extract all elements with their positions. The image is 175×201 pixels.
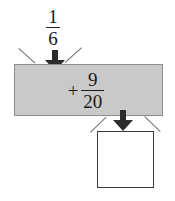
operand-fraction-numerator: 9 [86,70,100,89]
operand-fraction: 9 20 [81,70,104,112]
input-fraction-denominator: 6 [46,29,60,48]
function-machine-diagram: 1 6 + 9 20 [0,0,175,201]
funnel-line-bottom-right [144,116,161,132]
input-value: 1 6 [38,7,68,49]
arrow-down-icon-output [113,110,133,133]
input-fraction-numerator: 1 [46,7,60,26]
operator-symbol: + [68,80,79,102]
input-fraction: 1 6 [46,7,60,49]
arrow-head [113,120,133,131]
operand-fraction-denominator: 20 [81,92,104,111]
answer-box[interactable] [97,131,154,188]
funnel-line-top-left [18,48,35,63]
operation-label: + 9 20 [56,70,116,112]
funnel-line-top-right [65,47,82,62]
